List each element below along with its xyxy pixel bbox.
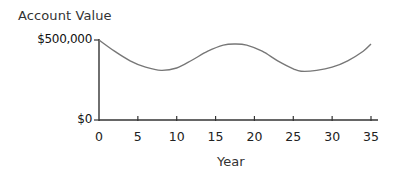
x-tick-label: 25 — [278, 129, 308, 144]
plot-area — [0, 0, 399, 179]
x-tick-label: 10 — [162, 129, 192, 144]
account-value-chart: Account Value $500,000 $0 05101520253035… — [0, 0, 399, 179]
x-tick-label: 20 — [239, 129, 269, 144]
x-tick-label: 0 — [84, 129, 114, 144]
x-tick-label: 35 — [356, 129, 386, 144]
x-tick-label: 5 — [123, 129, 153, 144]
x-tick-label: 30 — [317, 129, 347, 144]
account-value-line — [99, 40, 371, 71]
x-axis-title: Year — [217, 154, 245, 169]
x-tick-label: 15 — [201, 129, 231, 144]
